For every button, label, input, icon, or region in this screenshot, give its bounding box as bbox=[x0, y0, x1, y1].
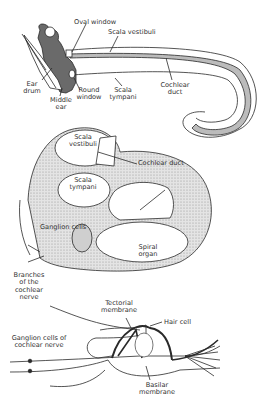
label-round-window: Round window bbox=[74, 87, 104, 102]
label-cochlear-duct-section: Cochlear duct bbox=[138, 160, 184, 167]
label-spiral-organ: Spiral organ bbox=[133, 244, 163, 259]
label-basilar-membrane: Basilar membrane bbox=[136, 382, 178, 397]
uncoiled-cochlea-panel bbox=[22, 24, 256, 137]
label-scala-vestibuli-top: Scala vestibuli bbox=[108, 29, 156, 36]
upper-turn-chamber bbox=[109, 182, 174, 220]
cross-section-panel bbox=[19, 128, 211, 271]
label-scala-tympani-top: Scala tympani bbox=[108, 87, 138, 102]
label-oval-window: Oval window bbox=[74, 19, 116, 26]
label-middle-ear: Middle ear bbox=[47, 97, 75, 112]
label-scala-vestibuli-section: Scala vestibuli bbox=[66, 134, 100, 149]
label-tectorial-membrane: Tectorial membrane bbox=[98, 300, 140, 315]
label-scala-tympani-section: Scala tympani bbox=[66, 177, 100, 192]
label-ear-drum: Ear drum bbox=[20, 81, 44, 96]
label-cochlear-duct-top: Cochlear duct bbox=[158, 82, 192, 97]
label-branches-cochlear-nerve: Branches of the cochlear nerve bbox=[10, 272, 48, 302]
label-hair-cell: Hair cell bbox=[164, 319, 191, 326]
label-ganglion-cells-nerve: Ganglion cells of cochlear nerve bbox=[10, 335, 68, 350]
label-ganglion-cells: Ganglion cells bbox=[40, 224, 86, 231]
